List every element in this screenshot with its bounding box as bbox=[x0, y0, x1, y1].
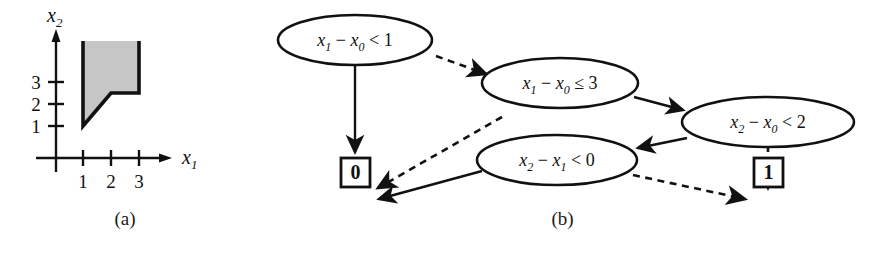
y-tick-label-2: 2 bbox=[31, 94, 41, 115]
terminal-node-0[interactable]: 0 bbox=[341, 158, 370, 187]
x-tick-label-2: 2 bbox=[106, 171, 116, 192]
y-tick-label-3: 3 bbox=[31, 72, 41, 93]
x-tick-label-3: 3 bbox=[134, 171, 144, 192]
panel-a-plot: 3 2 1 1 2 3 x2 x1 (a) bbox=[0, 0, 250, 265]
region-plot-svg: 3 2 1 1 2 3 x2 x1 bbox=[0, 0, 250, 200]
y-tick-label-1: 1 bbox=[31, 116, 41, 137]
x-tick-label-1: 1 bbox=[78, 171, 88, 192]
node-n2[interactable]: x1 − x0 ≤ 3 bbox=[482, 58, 638, 108]
feasible-region-fill bbox=[83, 41, 139, 126]
figure-root: 3 2 1 1 2 3 x2 x1 (a) bbox=[0, 0, 875, 265]
node-n4[interactable]: x2 − x1 < 0 bbox=[477, 135, 637, 185]
x-axis-label: x1 bbox=[181, 146, 197, 172]
terminal-node-1[interactable]: 1 bbox=[754, 158, 783, 187]
edge-n4-t1-dashed bbox=[633, 175, 745, 199]
edge-n3-n4-solid bbox=[638, 138, 687, 148]
ddd-graph-svg: x1 − x0 < 1 x1 − x0 ≤ 3 x2 − x0 < 2 bbox=[250, 0, 875, 205]
node-n3[interactable]: x2 − x0 < 2 bbox=[682, 97, 854, 147]
caption-panel-b: (b) bbox=[250, 208, 875, 230]
caption-panel-a: (a) bbox=[0, 208, 250, 230]
node-n1[interactable]: x1 − x0 < 1 bbox=[278, 15, 432, 65]
y-axis-arrowhead bbox=[52, 29, 61, 42]
x-axis-arrowhead bbox=[159, 154, 172, 163]
edge-n1-n2-dashed bbox=[436, 56, 486, 74]
y-axis-label: x2 bbox=[46, 4, 63, 30]
terminal-1-label: 1 bbox=[764, 161, 774, 183]
edge-n4-t0-solid bbox=[379, 171, 482, 199]
edge-n2-n3-solid bbox=[634, 97, 683, 110]
panel-b-diagram: x1 − x0 < 1 x1 − x0 ≤ 3 x2 − x0 < 2 bbox=[250, 0, 875, 265]
terminal-0-label: 0 bbox=[351, 161, 361, 183]
